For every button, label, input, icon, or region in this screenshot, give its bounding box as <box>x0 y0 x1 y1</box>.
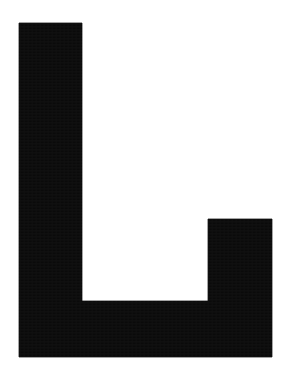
image-canvas: L Large solid black capital letter L on … <box>0 0 282 375</box>
right-terminal-riser <box>208 219 272 357</box>
letter-l-glyph <box>0 0 282 375</box>
